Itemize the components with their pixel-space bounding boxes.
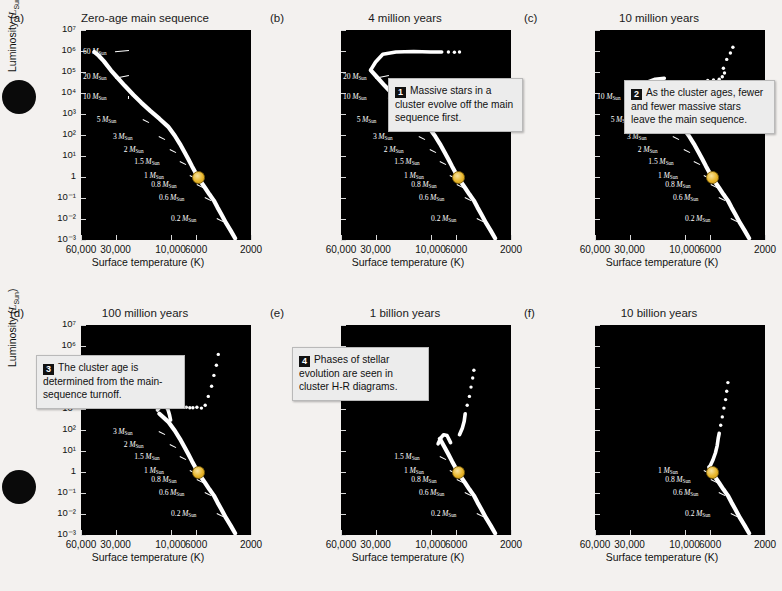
y-tick-mark: [81, 325, 86, 326]
y-tick-mark: [81, 240, 86, 241]
callout-text: Phases of stellar evolution are seen in …: [299, 354, 398, 392]
y-tick-label: 10⁶: [34, 46, 76, 54]
x-tick-mark: [196, 530, 197, 535]
x-axis-label: Surface temperature (K): [562, 551, 762, 563]
mass-label: 10 MSun: [83, 92, 107, 101]
callout-box: 2As the cluster ages, fewer and fewer ma…: [624, 80, 775, 134]
y-tick-mark: [81, 514, 86, 515]
x-tick-label: 30,000: [350, 244, 402, 255]
y-tick-mark: [341, 177, 346, 178]
panel-b: (b)4 million years60,00030,00010,0006000…: [270, 8, 516, 296]
x-tick-label: 2000: [739, 244, 782, 255]
y-tick-label: 10⁶: [34, 341, 76, 349]
hr-diagram-track: [595, 325, 765, 535]
plot-area: 20 MSun10 MSun5 MSun3 MSun2 MSun1.5 MSun…: [341, 30, 511, 240]
y-tick-label: 10⁻¹: [34, 488, 76, 496]
y-tick-mark: [595, 451, 600, 452]
x-tick-mark: [196, 235, 197, 240]
x-tick-mark: [171, 530, 172, 535]
y-tick-mark: [341, 156, 346, 157]
x-tick-label: 30,000: [604, 244, 656, 255]
x-tick-label: 2000: [739, 539, 782, 550]
y-tick-mark: [595, 240, 600, 241]
callout-number: 4: [299, 356, 310, 367]
x-tick-mark: [341, 235, 342, 240]
panel-tag: (b): [270, 12, 284, 24]
y-tick-mark: [595, 219, 600, 220]
y-tick-mark: [341, 30, 346, 31]
y-tick-mark: [341, 51, 346, 52]
mass-label: 1 MSun: [658, 466, 678, 475]
y-tick-label: 10⁵: [34, 67, 76, 75]
y-tick-label: 1: [34, 172, 76, 180]
mass-label: 0.8 MSun: [665, 475, 690, 484]
mass-label: 1.5 MSun: [134, 452, 159, 461]
y-tick-mark: [81, 177, 86, 178]
panel-title: Zero-age main sequence: [50, 12, 240, 24]
x-axis-label: Surface temperature (K): [48, 256, 248, 268]
mass-label: 10 MSun: [597, 92, 621, 101]
y-tick-mark: [595, 51, 600, 52]
y-tick-mark: [341, 135, 346, 136]
y-tick-mark: [341, 514, 346, 515]
y-tick-mark: [595, 177, 600, 178]
x-tick-mark: [630, 235, 631, 240]
panel-d: (d)100 million yearsLuminosity (LSun)10⁷…: [10, 303, 256, 591]
x-tick-mark: [685, 235, 686, 240]
y-tick-mark: [81, 219, 86, 220]
panel-title: 10 billion years: [564, 307, 754, 319]
mass-label: 0.6 MSun: [673, 488, 698, 497]
y-tick-mark: [595, 72, 600, 73]
mass-label: 3 MSun: [373, 132, 393, 141]
y-tick-mark: [595, 30, 600, 31]
y-tick-label: 10²: [34, 130, 76, 138]
panel-tag: (f): [524, 307, 535, 319]
callout-text: As the cluster ages, fewer and fewer mas…: [631, 87, 763, 125]
callout-number: 1: [395, 87, 406, 98]
mass-label: 1.5 MSun: [394, 452, 419, 461]
y-tick-label: 10⁻³: [34, 235, 76, 243]
callout-box: 4Phases of stellar evolution are seen in…: [292, 347, 429, 401]
y-tick-label: 10¹: [34, 151, 76, 159]
y-tick-label: 10³: [34, 109, 76, 117]
x-tick-label: 6000: [170, 244, 222, 255]
plot-area: 10 MSun5 MSun3 MSun2 MSun1.5 MSun1 MSun0…: [595, 30, 765, 240]
y-tick-mark: [595, 114, 600, 115]
mass-label: 2 MSun: [384, 145, 404, 154]
sun-marker: [192, 466, 205, 479]
panel-tag: (c): [524, 12, 537, 24]
panel-a: (a)Zero-age main sequenceLuminosity (LSu…: [10, 8, 256, 296]
x-tick-mark: [595, 530, 596, 535]
mass-label: 3 MSun: [113, 427, 133, 436]
callout-box: 1Massive stars in a cluster evolve off t…: [388, 78, 523, 132]
x-tick-mark: [171, 235, 172, 240]
y-tick-mark: [341, 409, 346, 410]
mass-label: 1.5 MSun: [134, 157, 159, 166]
y-tick-mark: [81, 346, 86, 347]
y-tick-mark: [81, 451, 86, 452]
y-tick-label: 10⁻²: [34, 509, 76, 517]
mass-label: 0.8 MSun: [411, 180, 436, 189]
mass-label: 1 MSun: [658, 171, 678, 180]
mass-label: 0.6 MSun: [159, 488, 184, 497]
y-tick-mark: [595, 409, 600, 410]
x-tick-mark: [456, 530, 457, 535]
mass-label: 0.2 MSun: [431, 509, 456, 518]
x-tick-label: 6000: [170, 539, 222, 550]
x-tick-label: 6000: [430, 539, 482, 550]
y-tick-mark: [341, 114, 346, 115]
x-axis-label: Surface temperature (K): [48, 551, 248, 563]
mass-label: 2 MSun: [124, 440, 144, 449]
mass-label: 1 MSun: [404, 171, 424, 180]
mass-label: 3 MSun: [113, 132, 133, 141]
x-tick-label: 30,000: [90, 244, 142, 255]
mass-label: 1 MSun: [144, 466, 164, 475]
panel-title: 4 million years: [310, 12, 500, 24]
y-tick-mark: [341, 451, 346, 452]
panel-title: 10 million years: [564, 12, 754, 24]
mass-label: 1 MSun: [144, 171, 164, 180]
y-tick-mark: [341, 93, 346, 94]
mass-label: 60 MSun: [83, 47, 107, 56]
y-tick-mark: [595, 388, 600, 389]
y-tick-label: 10²: [34, 425, 76, 433]
